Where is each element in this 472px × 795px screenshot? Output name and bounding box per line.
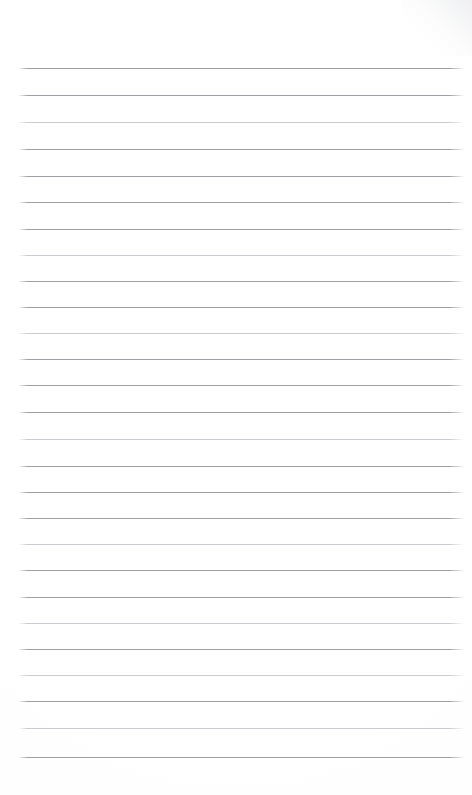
writing-area[interactable] xyxy=(18,48,465,768)
lined-paper-page xyxy=(0,0,472,795)
